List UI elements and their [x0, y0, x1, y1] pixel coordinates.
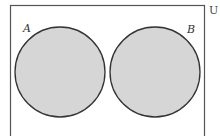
universe-label: U [209, 4, 218, 17]
set-a-circle [15, 27, 105, 117]
set-b-label: B [186, 23, 195, 36]
set-a-label: A [22, 22, 31, 35]
venn-diagram: A B U [0, 0, 220, 136]
set-b-circle [110, 27, 200, 117]
